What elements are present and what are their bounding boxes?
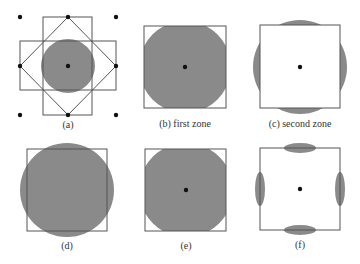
brillouin-zone-figure: (a) (b) first zone (c) second zone (d) (… (0, 0, 360, 264)
panel-c: (c) second zone (253, 20, 347, 130)
panel-d: (d) (20, 143, 114, 252)
panel-label-f: (f) (295, 239, 305, 251)
lattice-points (18, 15, 118, 117)
panel-label-c: (c) second zone (269, 118, 332, 130)
panel-b: (b) first zone (139, 21, 231, 130)
combined-zone-fill (20, 143, 114, 237)
panel-a: (a) (18, 15, 118, 131)
panel-label-d: (d) (61, 240, 73, 252)
panel-f: (f) (255, 143, 345, 251)
panel-label-b: (b) first zone (159, 118, 211, 130)
panel-label-a: (a) (62, 119, 73, 131)
panel-label-e: (e) (180, 240, 191, 252)
center-dot (183, 65, 187, 69)
center-dot (298, 65, 302, 69)
panel-e: (e) (139, 143, 233, 252)
center-dot (298, 187, 302, 191)
center-dot (184, 188, 188, 192)
